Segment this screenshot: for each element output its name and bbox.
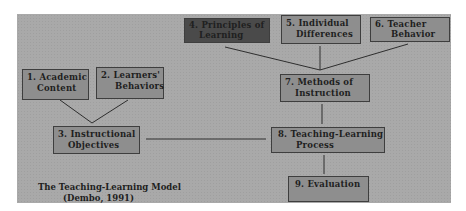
node-label: 7. Methods of	[285, 77, 353, 88]
edge-1-3	[60, 100, 92, 123]
node-label: Differences	[296, 29, 353, 40]
edge-4-7	[225, 47, 320, 70]
node-evaluation: 9. Evaluation	[288, 176, 369, 202]
node-label: Learning	[199, 30, 244, 41]
node-individual-differences: 5. Individual Differences	[281, 15, 361, 44]
node-methods-of-instruction: 7. Methods of Instruction	[280, 74, 370, 102]
edge-2-3	[92, 100, 128, 123]
diagram-citation: (Dembo, 1991)	[63, 193, 134, 203]
node-label: 1. Academic	[27, 72, 87, 83]
node-label: Process	[296, 140, 334, 151]
node-learners-behaviors: 2. Learners' Behaviors	[96, 67, 164, 99]
node-label: 9. Evaluation	[295, 179, 360, 190]
node-label: 2. Learners'	[101, 70, 160, 81]
node-principles-of-learning: 4. Principles of Learning	[184, 18, 270, 43]
node-teacher-behavior: 6. Teacher Behavior	[370, 17, 450, 42]
node-label: Instruction	[295, 88, 351, 99]
node-label: 5. Individual	[286, 18, 349, 29]
node-label: 8. Teaching-Learning	[278, 129, 383, 140]
diagram-title: The Teaching-Learning Model	[38, 182, 181, 192]
node-label: 3. Instructional	[58, 129, 135, 140]
node-academic-content: 1. Academic Content	[22, 69, 89, 100]
node-label: Behaviors	[115, 81, 164, 92]
node-teaching-learning-process: 8. Teaching-Learning Process	[271, 127, 385, 153]
node-instructional-objectives: 3. Instructional Objectives	[53, 126, 140, 154]
node-label: Objectives	[68, 140, 119, 151]
node-label: Content	[37, 83, 76, 94]
edge-6-7	[320, 44, 408, 70]
node-label: Behavior	[391, 29, 435, 40]
